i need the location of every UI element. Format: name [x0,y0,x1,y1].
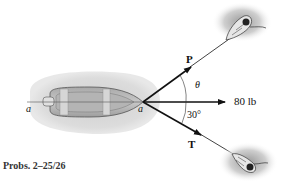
label-force-p: P [186,54,193,65]
rope-upper [190,37,232,67]
label-force-t: T [188,139,195,150]
arc-theta [180,75,186,102]
label-angle-30: 30° [187,110,201,120]
figure-caption: Probs. 2–25/26 [3,161,66,171]
tow-boat-upper [212,2,272,42]
label-axis-a-left: a [26,104,31,114]
tow-boat-lower [218,142,278,182]
arc-30 [182,102,186,123]
label-axis-a-right: a [138,104,143,114]
label-resultant: 80 lb [234,96,256,107]
label-angle-theta: θ [195,80,200,90]
